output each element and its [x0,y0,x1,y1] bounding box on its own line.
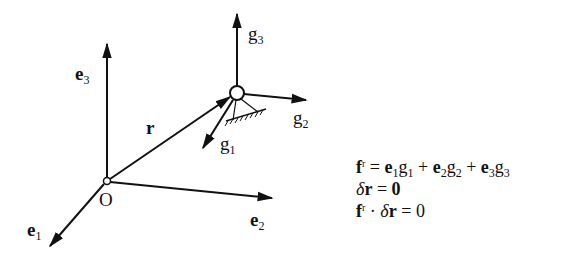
r-vector [110,97,230,179]
g2-axis [244,94,306,100]
equations-block: fr = e1g1 + e2g2 + e3g3 δr = 0 fr · δr =… [356,156,510,222]
equation-virtual-displacement: δr = 0 [356,178,510,200]
g1-label: g1 [220,134,236,153]
origin-label: O [99,190,113,209]
e3-label: e3 [75,64,89,83]
e2-label: e2 [250,210,264,229]
r-label: r [146,118,154,137]
g3-label: g3 [248,24,264,43]
support-node [230,86,244,100]
e2-axis [110,182,272,198]
equation-virtual-work: fr · δr = 0 [356,200,510,222]
equation-constraint-force: fr = e1g1 + e2g2 + e3g3 [356,156,510,178]
g2-label: g2 [293,108,309,127]
origin-point [104,178,111,185]
e1-label: e1 [27,220,41,239]
e1-axis [50,184,104,246]
